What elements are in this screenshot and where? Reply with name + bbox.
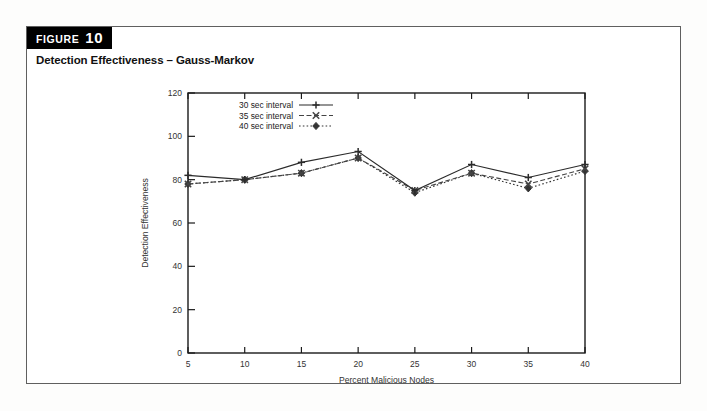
marker-cross <box>185 181 191 187</box>
legend-sample-1 <box>299 101 333 108</box>
marker-cross <box>412 187 418 193</box>
plot-border <box>188 93 585 353</box>
marker-diamond <box>185 180 191 187</box>
marker-cross <box>313 112 319 118</box>
x-tick-label: 20 <box>353 359 363 369</box>
marker-cross <box>242 176 248 182</box>
marker-diamond <box>525 185 531 192</box>
y-tick-label: 120 <box>168 88 182 98</box>
series-line <box>188 158 585 193</box>
y-tick-label: 80 <box>173 175 183 185</box>
x-tick-label: 10 <box>240 359 250 369</box>
line-chart: 020406080100120510152025303540Percent Ma… <box>27 27 682 385</box>
series-2 <box>185 155 588 194</box>
marker-cross <box>582 166 588 172</box>
figure-number-label: 10 <box>85 30 103 45</box>
marker-cross <box>242 176 248 182</box>
y-axis-title: Detection Effectiveness <box>140 178 150 268</box>
y-tick-label: 60 <box>173 218 183 228</box>
series-3 <box>185 154 588 196</box>
marker-diamond <box>242 176 248 183</box>
y-tick-label: 20 <box>173 305 183 315</box>
marker-cross <box>298 170 304 176</box>
series-1 <box>184 148 588 194</box>
marker-cross <box>412 187 418 193</box>
legend-sample-3 <box>299 122 333 129</box>
x-tick-label: 5 <box>186 359 191 369</box>
y-tick-label: 0 <box>177 348 182 358</box>
legend-label-1: 30 sec interval <box>239 100 293 110</box>
marker-diamond <box>412 189 418 196</box>
x-tick-label: 25 <box>410 359 420 369</box>
marker-cross <box>298 170 304 176</box>
marker-cross <box>468 170 474 176</box>
marker-diamond <box>582 167 588 174</box>
marker-cross <box>185 181 191 187</box>
x-tick-label: 15 <box>297 359 307 369</box>
legend-label-3: 40 sec interval <box>239 121 293 131</box>
marker-cross <box>468 170 474 176</box>
y-tick-label: 100 <box>168 131 182 141</box>
legend-label-2: 35 sec interval <box>239 111 293 121</box>
marker-diamond <box>313 122 319 129</box>
marker-diamond <box>468 170 474 177</box>
marker-diamond <box>355 154 361 161</box>
y-tick-label: 40 <box>173 261 183 271</box>
marker-cross <box>355 155 361 161</box>
legend-sample-2 <box>299 112 333 118</box>
x-tick-label: 35 <box>524 359 534 369</box>
series-line <box>188 152 585 191</box>
chart-area: 020406080100120510152025303540Percent Ma… <box>27 27 682 385</box>
marker-diamond <box>298 170 304 177</box>
x-axis-title: Percent Malicious Nodes <box>339 375 434 385</box>
figure-number-tab: FIGURE 10 <box>27 27 112 49</box>
x-tick-label: 40 <box>580 359 590 369</box>
figure-frame: FIGURE 10 Detection Effectiveness – Gaus… <box>26 26 681 384</box>
figure-keyword-label: FIGURE <box>36 33 79 45</box>
figure-caption: Detection Effectiveness – Gauss-Markov <box>36 54 254 66</box>
x-tick-label: 30 <box>467 359 477 369</box>
marker-cross <box>582 166 588 172</box>
marker-cross <box>355 155 361 161</box>
series-line <box>188 158 585 191</box>
marker-cross <box>313 112 319 118</box>
marker-cross <box>525 181 531 187</box>
marker-cross <box>525 181 531 187</box>
